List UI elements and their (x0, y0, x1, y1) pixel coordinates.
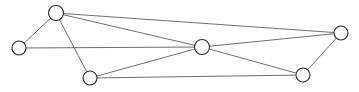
edge-layer (19, 13, 341, 78)
bottom-right-node (296, 68, 310, 82)
graph-canvas (0, 0, 359, 92)
top-left-node (49, 6, 64, 21)
graph-edge (202, 47, 303, 75)
graph-edge (90, 75, 303, 78)
graph-edge (56, 13, 90, 78)
graph-edge (90, 47, 202, 78)
center-hub-node (195, 40, 210, 55)
far-left-node (12, 41, 26, 55)
graph-edge (303, 33, 341, 75)
graph-diagram (0, 0, 359, 92)
bottom-left-node (83, 71, 97, 85)
graph-edge (202, 33, 341, 47)
node-layer (12, 6, 348, 86)
top-right-node (334, 26, 348, 40)
graph-edge (19, 47, 202, 48)
